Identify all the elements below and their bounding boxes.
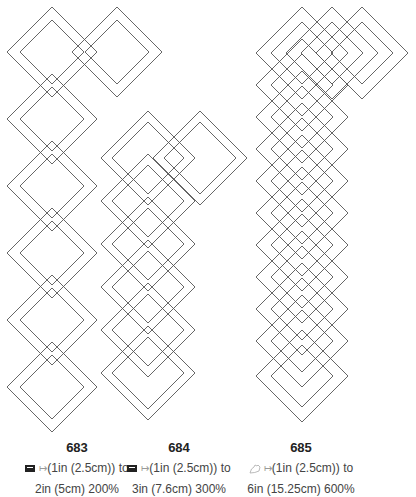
diamond-outline [101,154,195,248]
diamond-outline [271,246,333,308]
diamond-outline [112,165,184,237]
diamond-outline [271,118,333,180]
size-max: 6in (15.25cm) 600% [226,479,376,497]
diamond-outline [112,294,184,366]
diamond-outline [256,39,348,131]
pattern-685 [256,7,408,422]
free-motion-hand-icon [249,464,261,474]
pattern-number: 685 [226,438,376,458]
diamond-outline [256,135,348,227]
diamond-outline [286,7,378,99]
diamond-outline [256,7,348,99]
diamond-outline [331,22,393,84]
diamond-outline [256,103,348,195]
diamond-outline [112,251,184,323]
diamond-outline [271,278,333,340]
diamond-outline [256,330,348,422]
diamond-outline [112,208,184,280]
diamond-outline [153,111,247,205]
diamond-outline [301,22,363,84]
diamond-outline [112,337,184,409]
diamond-outline [101,326,195,420]
caption-685: 685 ↦(1in (2.5cm)) to 6in (15.25cm) 600% [226,438,376,497]
diamond-outline [256,199,348,291]
diamond-outline [316,7,408,99]
diamond-outline [164,122,236,194]
sewing-machine-icon [127,465,137,472]
diamond-outline [256,263,348,355]
diamond-outline [271,345,333,407]
diamond-outline [101,240,195,334]
diamond-outline [256,295,348,387]
diamond-outline [256,167,348,259]
diamond-outline [256,71,348,163]
diamond-outline [112,122,184,194]
sewing-machine-icon [25,465,35,472]
quilting-patterns [0,0,416,440]
diamond-outline [271,310,333,372]
diamond-outline [101,283,195,377]
diamond-outline [271,214,333,276]
diamond-outline [101,197,195,291]
pattern-684 [101,111,247,420]
width-arrow-icon: ↦ [264,463,272,474]
diamond-outline [256,231,348,323]
diamond-outline [271,86,333,148]
diamond-outline [271,182,333,244]
size-range: (1in (2.5cm)) to [272,461,353,475]
diamond-outline [271,22,333,84]
diamond-outline [101,111,195,205]
diamond-outline [271,54,333,116]
diamond-outline [271,150,333,212]
size-range: (1in (2.5cm)) to [149,461,230,475]
